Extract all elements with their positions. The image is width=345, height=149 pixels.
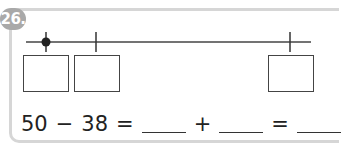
answer-blank-3[interactable] <box>297 131 341 133</box>
equals-sign: = <box>116 112 134 136</box>
plus-sign: + <box>194 112 212 136</box>
equation: 50 − 38 = + = <box>21 112 345 136</box>
minus-sign: − <box>56 112 74 136</box>
answer-blank-2[interactable] <box>219 131 263 133</box>
answer-box-2[interactable] <box>74 55 120 92</box>
answer-box-1[interactable] <box>23 55 69 92</box>
left-operand: 50 <box>21 112 48 136</box>
answer-blank-1[interactable] <box>142 131 186 133</box>
start-dot-icon <box>42 38 51 47</box>
right-operand: 38 <box>81 112 108 136</box>
answer-box-3[interactable] <box>268 55 314 92</box>
equals-sign-2: = <box>271 112 289 136</box>
